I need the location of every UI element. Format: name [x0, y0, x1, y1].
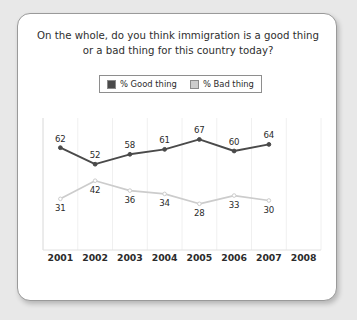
chart-title-line-1: On the whole, do you think immigration i… [32, 28, 324, 43]
data-point [232, 194, 236, 198]
legend-swatch-bad-thing [190, 80, 199, 89]
x-tick-2008: 2008 [286, 252, 321, 268]
data-point [163, 147, 167, 151]
data-point [59, 197, 63, 201]
chart-title: On the whole, do you think immigration i… [32, 28, 324, 58]
data-label: 33 [229, 200, 240, 210]
data-label: 31 [55, 203, 66, 213]
x-tick-2005: 2005 [182, 252, 217, 268]
data-point [93, 162, 97, 166]
data-point [198, 202, 202, 206]
x-tick-2002: 2002 [78, 252, 113, 268]
data-label: 36 [124, 195, 135, 205]
line-chart-svg: 6252586167606431423634283330 [43, 118, 321, 250]
plot-area: 6252586167606431423634283330 [43, 118, 321, 250]
data-point [267, 199, 271, 203]
chart-title-line-2: or a bad thing for this country today? [32, 43, 324, 58]
x-tick-2003: 2003 [113, 252, 148, 268]
legend-label-bad-thing: % Bad thing [203, 79, 254, 89]
data-label: 52 [90, 150, 101, 160]
data-point [197, 138, 201, 142]
data-label: 64 [263, 130, 274, 140]
data-label: 42 [90, 185, 101, 195]
data-label: 28 [194, 208, 205, 218]
data-label: 61 [159, 135, 170, 145]
legend-entry-bad-thing: % Bad thing [190, 79, 254, 89]
legend-entry-good-thing: % Good thing [107, 79, 177, 89]
x-tick-2004: 2004 [147, 252, 182, 268]
x-tick-2007: 2007 [252, 252, 287, 268]
x-tick-2006: 2006 [217, 252, 252, 268]
legend-swatch-good-thing [107, 80, 116, 89]
x-tick-2001: 2001 [43, 252, 78, 268]
data-point [163, 192, 167, 196]
data-label: 62 [55, 134, 66, 144]
data-point [267, 143, 271, 147]
chart-legend: % Good thing % Bad thing [99, 75, 262, 93]
data-point [232, 149, 236, 153]
data-label: 30 [263, 205, 274, 215]
data-point [128, 189, 132, 193]
chart-card: On the whole, do you think immigration i… [17, 13, 337, 301]
data-label: 60 [229, 137, 240, 147]
data-label: 67 [194, 125, 205, 135]
legend-label-good-thing: % Good thing [120, 79, 177, 89]
data-point [128, 152, 132, 156]
data-point [93, 179, 97, 183]
data-label: 34 [159, 198, 170, 208]
data-label: 58 [124, 140, 135, 150]
data-point [58, 146, 62, 150]
x-axis-tick-labels: 20012002200320042005200620072008 [43, 252, 321, 268]
